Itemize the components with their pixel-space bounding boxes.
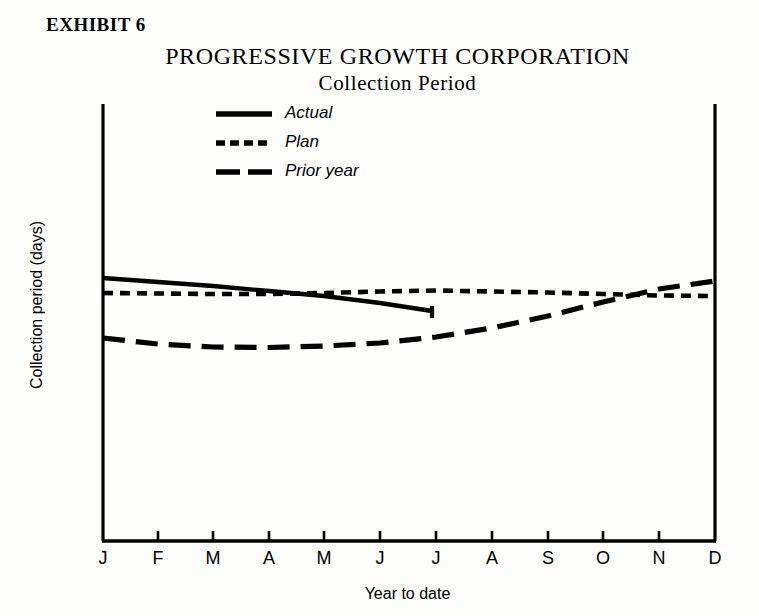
chart-plot: [0, 0, 759, 616]
series-plan: [103, 291, 715, 297]
x-tick-label-0: J: [90, 548, 116, 569]
x-tick-label-1: F: [145, 548, 171, 569]
short-dashed-line-icon: [215, 137, 273, 149]
x-tick-label-9: O: [590, 548, 616, 569]
long-dashed-line-icon: [215, 166, 273, 178]
x-tick-label-4: M: [311, 548, 337, 569]
exhibit-page: EXHIBIT 6 PROGRESSIVE GROWTH CORPORATION…: [0, 0, 759, 616]
legend-label-plan: Plan: [285, 132, 319, 152]
x-tick-label-10: N: [646, 548, 672, 569]
x-tick-label-11: D: [702, 548, 728, 569]
x-tick-label-8: S: [535, 548, 561, 569]
x-tick-label-6: J: [423, 548, 449, 569]
x-tick-label-5: J: [367, 548, 393, 569]
x-tick-label-3: A: [256, 548, 282, 569]
legend-label-actual: Actual: [285, 103, 332, 123]
x-axis-title: Year to date: [0, 585, 759, 603]
x-tick-label-2: M: [200, 548, 226, 569]
series-actual: [103, 278, 432, 311]
legend-label-prior-year: Prior year: [285, 161, 359, 181]
solid-line-icon: [215, 108, 273, 120]
x-tick-label-7: A: [479, 548, 505, 569]
y-axis-title: Collection period (days): [28, 195, 46, 415]
